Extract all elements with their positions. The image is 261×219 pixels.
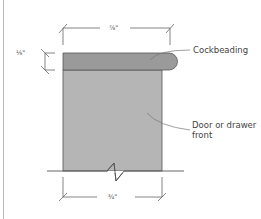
cockbeading-diagram [0, 0, 261, 219]
front-thickness-label: ¾" [108, 193, 117, 201]
cockbeading-shape [63, 53, 178, 70]
bead-thickness-label: ⅛" [16, 49, 25, 57]
left-dimension [41, 49, 55, 74]
top-width-label: ⅞" [109, 24, 118, 32]
door-front-callout-line2: front [192, 130, 212, 140]
door-front-shape [63, 70, 162, 171]
cockbeading-callout: Cockbeading [193, 45, 248, 55]
door-front-callout-line1: Door or drawer [192, 120, 256, 130]
